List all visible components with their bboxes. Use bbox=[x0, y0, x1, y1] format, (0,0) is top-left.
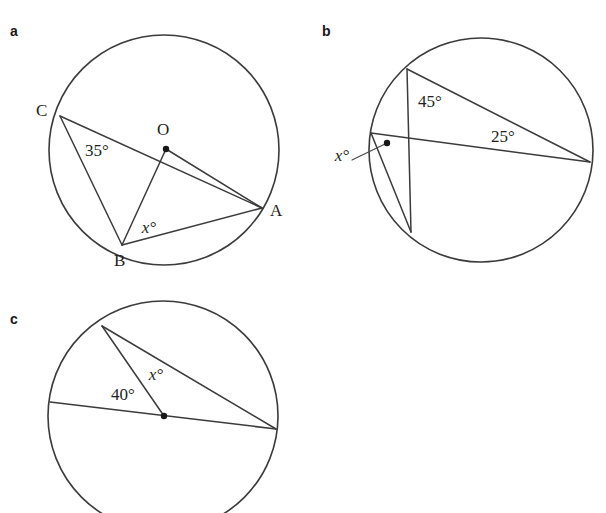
angle-label-c-40: 40° bbox=[111, 386, 135, 403]
centre-dot-c bbox=[161, 413, 167, 419]
angle-label-c-x: x° bbox=[149, 366, 163, 383]
chord-topleft-right-b bbox=[407, 69, 590, 162]
marked-angle-dot-b bbox=[384, 140, 390, 146]
angle-label-b-25: 25° bbox=[491, 128, 515, 145]
figure-sheet: a A B C O 35° x° b 45° 25° x° c 40° x° bbox=[0, 0, 606, 513]
circle-outline-b bbox=[369, 38, 593, 262]
diagram-b bbox=[0, 0, 606, 290]
diagram-c bbox=[0, 290, 306, 513]
angle-label-b-45: 45° bbox=[418, 93, 442, 110]
chord-left-right-b bbox=[371, 133, 590, 162]
angle-label-b-x: x° bbox=[335, 147, 349, 164]
circle-outline-c bbox=[48, 301, 278, 513]
chord-topleft-bottom-b bbox=[407, 69, 411, 232]
